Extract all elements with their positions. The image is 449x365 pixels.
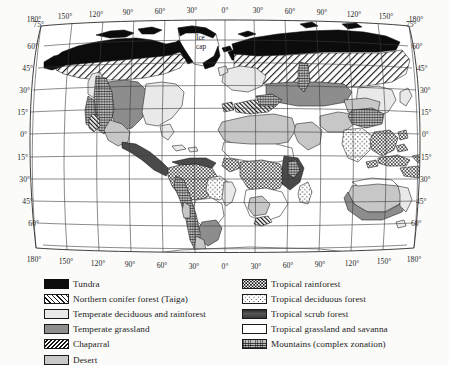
- legend-label-tropical-scrub-forest: Tropical scrub forest: [271, 309, 348, 319]
- lon-label-bottom: 30°: [251, 262, 262, 271]
- world-map: Ice cap 180° 150° 120° 90° 60° 30° 0° 30…: [0, 0, 449, 272]
- legend-item-tropical-scrub-forest: Tropical scrub forest: [242, 306, 447, 321]
- legend-swatch-tropical-scrub-forest: [242, 309, 267, 319]
- lon-label-top: 0°: [222, 6, 229, 15]
- lon-label-top: 90°: [317, 8, 328, 17]
- legend-swatch-tundra: [44, 279, 69, 289]
- lat-label-left: 15°: [17, 108, 28, 117]
- legend-label-temperate-grassland: Temperate grassland: [73, 324, 150, 334]
- lon-label-top: 120°: [347, 10, 361, 19]
- legend-swatch-taiga: [44, 294, 69, 304]
- lon-label-bottom: 90°: [125, 260, 136, 269]
- lon-label-top: 120°: [89, 10, 103, 19]
- lat-label-left: 0°: [20, 130, 27, 139]
- legend-item-tropical-grassland-savanna: Tropical grassland and savanna: [242, 322, 447, 337]
- lon-label-bottom: 150°: [377, 257, 391, 266]
- legend-swatch-tropical-rainforest: [242, 279, 267, 289]
- lat-label-right: 30°: [420, 86, 431, 95]
- legend-swatch-desert: [44, 355, 69, 365]
- legend-swatch-temperate-deciduous: [44, 309, 69, 319]
- legend-label-mountains: Mountains (complex zonation): [271, 339, 386, 349]
- lon-label-bottom: 90°: [315, 260, 326, 269]
- lat-label-left: 60°: [28, 219, 39, 228]
- lat-label-left: 45°: [22, 64, 33, 73]
- lat-label-right: 30°: [420, 175, 431, 184]
- legend-label-desert: Desert: [73, 355, 97, 365]
- legend-label-tropical-rainforest: Tropical rainforest: [271, 279, 340, 289]
- legend-label-tropical-deciduous-forest: Tropical deciduous forest: [271, 294, 366, 304]
- lon-label-bottom: 120°: [345, 259, 359, 268]
- lat-label-right: 45°: [416, 197, 427, 206]
- lon-label-bottom: 120°: [91, 259, 105, 268]
- lon-label-top: 60°: [155, 7, 166, 16]
- lon-label-bottom: 60°: [283, 261, 294, 270]
- legend: Tundra Northern conifer forest (Taiga) T…: [0, 276, 449, 365]
- legend-swatch-chaparral: [44, 339, 69, 349]
- lon-label-top: 30°: [253, 6, 264, 15]
- lat-label-right: 60°: [411, 219, 422, 228]
- legend-item-chaparral: Chaparral: [44, 337, 244, 352]
- world-map-svg: Ice cap 180° 150° 120° 90° 60° 30° 0° 30…: [0, 0, 449, 272]
- legend-item-mountains: Mountains (complex zonation): [242, 337, 447, 352]
- lat-label-right: 60°: [412, 42, 423, 51]
- legend-item-taiga: Northern conifer forest (Taiga): [44, 291, 244, 306]
- lat-label-right: 15°: [421, 108, 432, 117]
- ice-cap-label-line1: Ice: [196, 34, 205, 42]
- lat-label-right: 45°: [417, 64, 428, 73]
- lat-label-right: 75°: [406, 20, 417, 29]
- lat-label-left: 30°: [19, 175, 30, 184]
- lon-label-bottom: 180°: [27, 255, 41, 264]
- lon-label-bottom: 150°: [59, 257, 73, 266]
- legend-item-tropical-rainforest: Tropical rainforest: [242, 276, 447, 291]
- lat-label-left: 60°: [27, 42, 38, 51]
- legend-swatch-temperate-grassland: [44, 324, 69, 334]
- legend-swatch-tropical-grassland-savanna: [242, 324, 267, 334]
- lon-label-top: 30°: [187, 6, 198, 15]
- lon-label-top: 150°: [379, 12, 393, 21]
- lon-label-top: 90°: [123, 8, 134, 17]
- legend-item-tropical-deciduous-forest: Tropical deciduous forest: [242, 291, 447, 306]
- lat-label-left: 30°: [19, 86, 30, 95]
- lat-label-right: 0°: [422, 130, 429, 139]
- lon-label-bottom: 30°: [189, 262, 200, 271]
- legend-swatch-mountains: [242, 339, 267, 349]
- lon-label-bottom: 60°: [157, 261, 168, 270]
- legend-column-left: Tundra Northern conifer forest (Taiga) T…: [44, 276, 244, 365]
- lon-label-top: 150°: [58, 12, 72, 21]
- legend-item-temperate-deciduous: Temperate deciduous and rainforest: [44, 306, 244, 321]
- lon-label-bottom: 0°: [222, 262, 229, 271]
- lat-label-left: 15°: [17, 153, 28, 162]
- legend-item-tundra: Tundra: [44, 276, 244, 291]
- legend-label-temperate-deciduous: Temperate deciduous and rainforest: [73, 309, 206, 319]
- lat-label-left: 75°: [33, 20, 44, 29]
- legend-item-desert: Desert: [44, 352, 244, 365]
- lon-label-bottom: 180°: [407, 255, 421, 264]
- biome-map-figure: Ice cap 180° 150° 120° 90° 60° 30° 0° 30…: [0, 0, 449, 365]
- legend-label-taiga: Northern conifer forest (Taiga): [73, 294, 188, 304]
- legend-label-tundra: Tundra: [73, 279, 100, 289]
- lat-label-right: 15°: [421, 153, 432, 162]
- legend-label-chaparral: Chaparral: [73, 339, 110, 349]
- legend-item-temperate-grassland: Temperate grassland: [44, 322, 244, 337]
- lon-label-top: 60°: [285, 7, 296, 16]
- legend-column-right: Tropical rainforest Tropical deciduous f…: [242, 276, 447, 352]
- legend-label-tropical-grassland-savanna: Tropical grassland and savanna: [271, 324, 388, 334]
- ice-cap-label-line2: cap: [196, 43, 206, 51]
- lat-label-left: 45°: [22, 197, 33, 206]
- legend-swatch-tropical-deciduous-forest: [242, 294, 267, 304]
